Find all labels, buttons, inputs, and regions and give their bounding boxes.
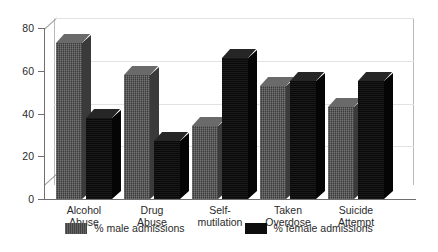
bar-front-face	[222, 58, 248, 199]
legend-label-female: % female admissions	[274, 222, 373, 234]
y-axis-tick	[38, 156, 44, 157]
bar-front-face	[358, 81, 384, 199]
y-axis-tick	[38, 71, 44, 72]
chart-legend: % male admissions % female admissions	[0, 222, 438, 234]
y-axis-tick-label: 0	[28, 193, 34, 205]
y-axis-line	[44, 28, 45, 200]
bar-side-face	[180, 133, 189, 199]
bar-front-face	[124, 75, 150, 199]
y-axis-tick-label: 40	[22, 108, 34, 120]
bar-front-face	[56, 43, 82, 199]
bar-front-face	[290, 81, 316, 199]
y-axis-tick-label: 80	[22, 22, 34, 34]
bar-male	[260, 86, 286, 199]
bar-side-face	[384, 73, 393, 199]
bar-side-face	[248, 50, 257, 199]
plot-back-wall-left	[54, 18, 55, 185]
plot-depth-connector-top	[44, 14, 58, 30]
bar-chart: 020406080 Alcohol AbuseDrug AbuseSelf- m…	[0, 0, 438, 252]
y-axis-tick-label: 60	[22, 65, 34, 77]
bar-front-face	[328, 107, 354, 199]
plot-area: 020406080 Alcohol AbuseDrug AbuseSelf- m…	[44, 14, 414, 185]
bar-female	[358, 81, 384, 199]
bar-front-face	[86, 118, 112, 199]
y-axis-tick	[38, 28, 44, 29]
grey-swatch-icon	[65, 223, 87, 234]
gridline	[54, 18, 414, 19]
bar-female	[154, 141, 180, 199]
legend-item-female: % female admissions	[245, 222, 373, 234]
y-axis-tick-label: 20	[22, 150, 34, 162]
y-axis-tick	[38, 114, 44, 115]
y-axis-tick	[38, 199, 44, 200]
bar-male	[328, 107, 354, 199]
plot-back-wall-right	[413, 18, 414, 185]
bar-side-face	[316, 73, 325, 199]
legend-label-male: % male admissions	[94, 222, 184, 234]
bar-male	[124, 75, 150, 199]
bar-female	[222, 58, 248, 199]
bar-front-face	[192, 126, 218, 199]
black-swatch-icon	[245, 223, 267, 234]
bar-female	[290, 81, 316, 199]
bar-female	[86, 118, 112, 199]
bar-male	[56, 43, 82, 199]
bar-side-face	[112, 110, 121, 199]
bar-male	[192, 126, 218, 199]
bar-front-face	[260, 86, 286, 199]
x-axis-line	[44, 199, 416, 200]
bar-front-face	[154, 141, 180, 199]
legend-item-male: % male admissions	[65, 222, 184, 234]
